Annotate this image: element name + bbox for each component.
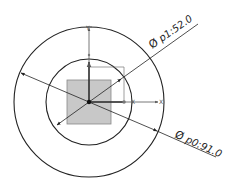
x-axis-label: X — [159, 98, 163, 105]
p0-dimension-label[interactable]: Ø p0:91.0 — [173, 128, 224, 160]
x-axis-point-icon — [122, 100, 126, 104]
y-axis-label: Y — [85, 24, 90, 31]
svg-text:p0:91.0: p0:91.0 — [183, 133, 223, 159]
x-axis-small-label: X — [131, 98, 135, 105]
y-axis-point-icon — [88, 54, 90, 56]
origin-point-icon[interactable] — [87, 100, 91, 104]
sketch-drawing: Y X X Ø p1:52.0 Ø p0:91.0 — [0, 0, 234, 192]
svg-text:p1:52.0: p1:52.0 — [156, 13, 195, 45]
sketch-canvas: Y X X Ø p1:52.0 Ø p0:91.0 — [0, 0, 234, 192]
